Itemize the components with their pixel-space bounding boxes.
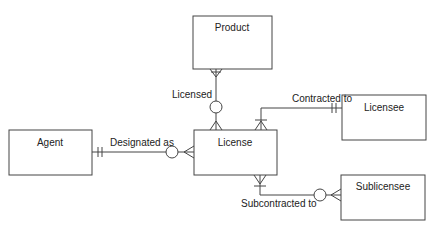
entity-license[interactable]: License: [194, 130, 277, 175]
relationship-designated: Designated as: [92, 137, 194, 158]
entity-licensee-label: Licensee: [364, 102, 404, 113]
relationship-subcontracted: Subcontracted to: [241, 175, 341, 209]
relationship-contracted-label: Contracted to: [292, 93, 352, 104]
relationship-designated-label: Designated as: [110, 137, 174, 148]
entity-product-label: Product: [215, 22, 250, 33]
entity-sublicensee-label: Sublicensee: [356, 181, 411, 192]
entity-agent[interactable]: Agent: [9, 130, 92, 175]
entity-product[interactable]: Product: [193, 16, 272, 69]
relationship-licensed-label: Licensed: [172, 89, 212, 100]
relationship-subcontracted-label: Subcontracted to: [241, 198, 317, 209]
er-diagram: Product Agent License Licensee Sublicens…: [0, 0, 435, 230]
entity-agent-label: Agent: [37, 137, 63, 148]
relationship-licensed: Licensed: [172, 69, 222, 130]
relationship-contracted: Contracted to: [255, 93, 352, 130]
entity-sublicensee[interactable]: Sublicensee: [341, 175, 425, 220]
entity-license-label: License: [218, 137, 253, 148]
entity-licensee[interactable]: Licensee: [342, 95, 426, 140]
